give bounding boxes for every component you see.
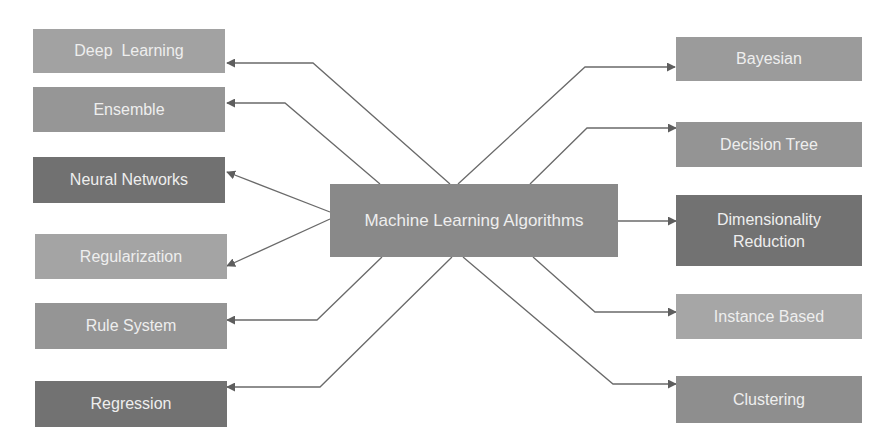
node-clustering: Clustering [676,376,862,423]
center-node-label: Machine Learning Algorithms [364,210,583,232]
center-node-machine-learning-algorithms: Machine Learning Algorithms [330,184,618,257]
edge-rule-system [227,257,382,320]
node-neural-networks: Neural Networks [33,157,225,203]
node-label: Instance Based [714,306,824,328]
ml-algorithms-diagram: Machine Learning Algorithms Deep Learnin… [0,0,887,448]
node-label: Dimensionality Reduction [717,209,821,253]
node-decision-tree: Decision Tree [676,122,862,167]
edge-instance-based [533,257,676,312]
edge-regression [227,257,452,387]
node-label: Deep Learning [74,40,183,62]
node-label: Rule System [86,315,177,337]
edge-decision-tree [530,128,676,184]
node-ensemble: Ensemble [33,87,225,132]
edge-deep-learning [227,63,450,184]
node-instance-based: Instance Based [676,294,862,339]
edge-regularization [227,219,330,266]
edge-ensemble [227,103,380,184]
node-rule-system: Rule System [35,303,227,349]
node-label: Bayesian [736,48,802,70]
node-label: Regularization [80,246,182,268]
node-label: Clustering [733,389,805,411]
node-label: Neural Networks [70,169,188,191]
node-deep-learning: Deep Learning [33,29,225,73]
node-label: Decision Tree [720,134,818,156]
node-label: Regression [91,393,172,415]
node-label: Ensemble [93,99,164,121]
node-regression: Regression [35,381,227,427]
node-dimensionality-reduction: Dimensionality Reduction [676,195,862,266]
edge-clustering [463,257,676,384]
node-bayesian: Bayesian [676,37,862,81]
edge-bayesian [458,67,675,184]
node-regularization: Regularization [35,234,227,279]
edge-neural-networks [227,172,330,212]
